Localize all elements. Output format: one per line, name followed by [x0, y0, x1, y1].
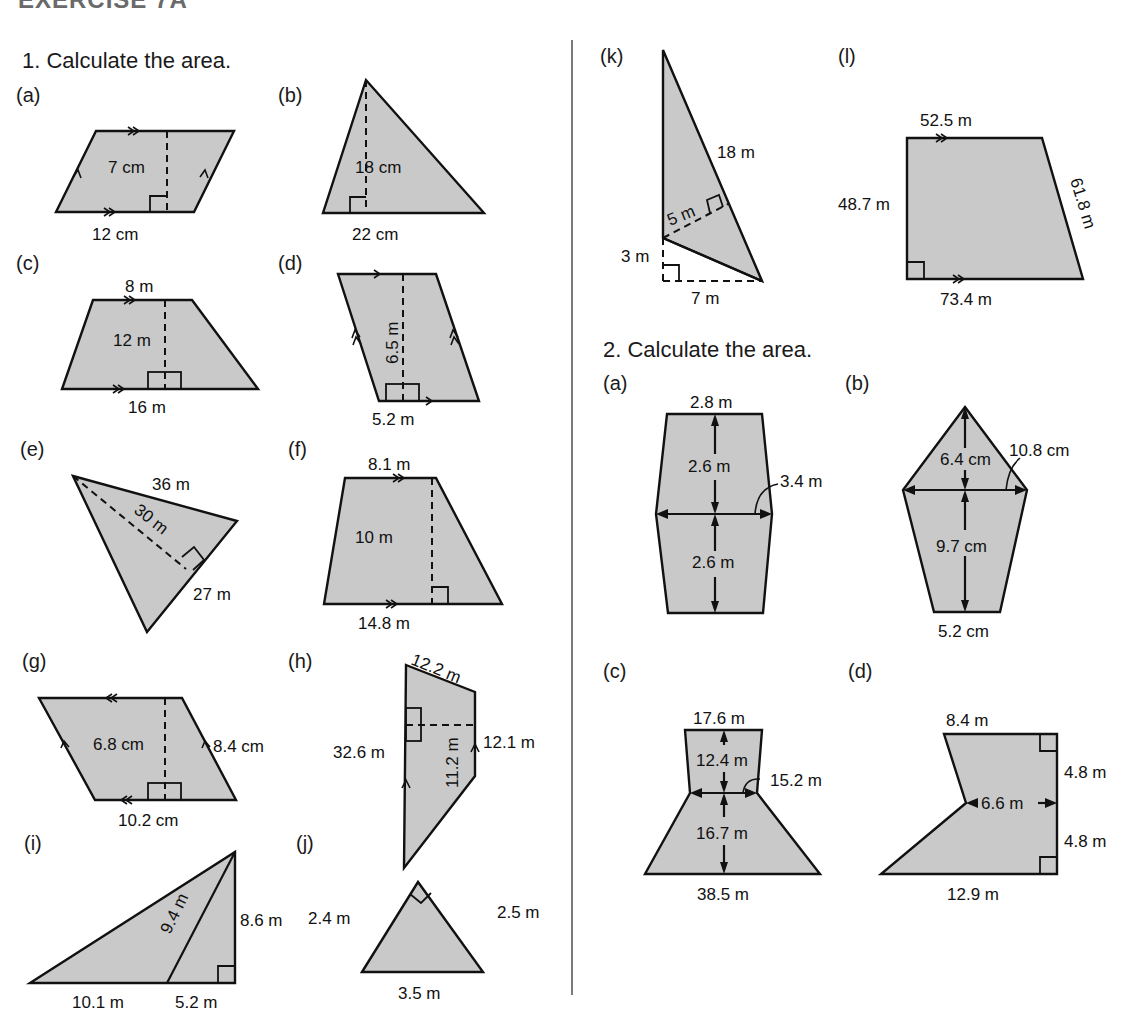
- q1f-base: 14.8 m: [358, 614, 410, 633]
- q1l-left: 48.7 m: [838, 195, 890, 214]
- q1f-trapezoid: 8.1 m 10 m 14.8 m: [324, 455, 502, 633]
- q2d-base: 12.9 m: [947, 885, 999, 904]
- q1g-side: 8.4 cm: [213, 737, 264, 756]
- q1j-base: 3.5 m: [398, 984, 441, 1003]
- q2d-r1: 4.8 m: [1064, 763, 1107, 782]
- q2d-mid: 6.6 m: [981, 794, 1024, 813]
- q2b-mid: 10.8 cm: [1009, 441, 1069, 460]
- q1b-base: 22 cm: [352, 225, 398, 244]
- q1j-left: 2.4 m: [308, 909, 351, 928]
- q1e-triangle: 36 m 30 m 27 m: [73, 475, 237, 632]
- q1j-right: 2.5 m: [497, 903, 540, 922]
- q1d-parallelogram: 6.5 m 5.2 m: [338, 270, 479, 429]
- q2b-base: 5.2 cm: [938, 622, 989, 641]
- q1a-base: 12 cm: [92, 225, 138, 244]
- q2d-top: 8.4 m: [946, 711, 989, 730]
- q1k-vert: 3 m: [621, 247, 649, 266]
- q1h-left: 32.6 m: [333, 743, 385, 762]
- q2b-h1: 6.4 cm: [940, 450, 991, 469]
- q1g-parallelogram: 6.8 cm 8.4 cm 10.2 cm: [39, 694, 264, 830]
- q1k-triangle: 18 m 5 m 3 m 7 m: [621, 50, 762, 308]
- q1c-base: 16 m: [128, 398, 166, 417]
- q1a-parallelogram: 7 cm 12 cm: [56, 127, 234, 244]
- q1g-base: 10.2 cm: [118, 811, 178, 830]
- q2a-hexagon: 2.8 m 2.6 m 3.4 m 2.6 m: [656, 393, 823, 613]
- q1f-height: 10 m: [355, 528, 393, 547]
- q2c-composite: 17.6 m 12.4 m 15.2 m 16.7 m 38.5 m: [645, 709, 822, 904]
- q2a-h1: 2.6 m: [688, 457, 731, 476]
- q1c-top: 8 m: [125, 277, 153, 296]
- q1k-hyp: 18 m: [717, 143, 755, 162]
- q2c-mid: 15.2 m: [770, 771, 822, 790]
- q1h-right: 12.1 m: [483, 733, 535, 752]
- q1i-triangle: 9.4 m 8.6 m 10.1 m 5.2 m: [30, 852, 283, 1012]
- q2b-h2: 9.7 cm: [936, 537, 987, 556]
- q2a-top: 2.8 m: [690, 393, 733, 412]
- figures-canvas: 7 cm 12 cm 18 cm 22 cm 8 m 12 m 16 m 6.5…: [0, 0, 1138, 1022]
- q1d-height: 6.5 m: [383, 321, 402, 364]
- q1i-base1: 10.1 m: [72, 993, 124, 1012]
- q1a-height: 7 cm: [108, 158, 145, 177]
- q1b-height: 18 cm: [355, 158, 401, 177]
- q2c-base: 38.5 m: [697, 885, 749, 904]
- q2c-h2: 16.7 m: [696, 824, 748, 843]
- q1l-trapezoid: 52.5 m 48.7 m 61.8 m 73.4 m: [838, 111, 1100, 309]
- q1i-base2: 5.2 m: [175, 993, 218, 1012]
- q2c-top: 17.6 m: [693, 709, 745, 728]
- q2d-composite: 8.4 m 4.8 m 6.6 m 4.8 m 12.9 m: [881, 711, 1107, 904]
- q1h-shape: 12.2 m 32.6 m 11.2 m 12.1 m: [333, 650, 535, 868]
- q2c-h1: 12.4 m: [696, 751, 748, 770]
- q1e-side1: 36 m: [152, 475, 190, 494]
- q1c-trapezoid: 8 m 12 m 16 m: [62, 277, 258, 417]
- q1d-base: 5.2 m: [372, 410, 415, 429]
- q1g-height: 6.8 cm: [93, 735, 144, 754]
- q1e-side2: 27 m: [193, 585, 231, 604]
- q1k-base: 7 m: [691, 289, 719, 308]
- q1f-top: 8.1 m: [368, 455, 411, 474]
- q2d-r2: 4.8 m: [1064, 832, 1107, 851]
- q1h-height: 11.2 m: [443, 737, 462, 788]
- q2b-pentagon: 6.4 cm 10.8 cm 9.7 cm 5.2 cm: [903, 407, 1069, 641]
- q1j-triangle: 2.4 m 2.5 m 3.5 m: [308, 882, 540, 1003]
- q1c-height: 12 m: [113, 331, 151, 350]
- q1l-top: 52.5 m: [920, 111, 972, 130]
- q1l-right: 61.8 m: [1066, 176, 1099, 231]
- q1i-height: 8.6 m: [240, 911, 283, 930]
- q2a-h2: 2.6 m: [692, 553, 735, 572]
- q1b-triangle: 18 cm 22 cm: [323, 80, 484, 244]
- q1l-base: 73.4 m: [940, 290, 992, 309]
- q2a-mid: 3.4 m: [780, 472, 823, 491]
